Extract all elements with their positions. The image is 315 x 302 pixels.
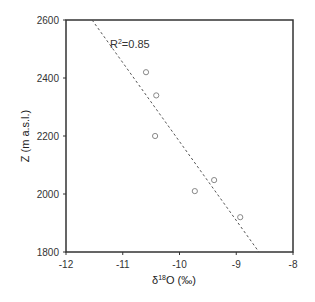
r-squared-annotation: R2=0.85 — [110, 38, 150, 50]
data-points — [143, 70, 242, 220]
x-tick-label: -10 — [172, 259, 187, 270]
x-axis-label: δ18O (‰) — [152, 274, 196, 286]
data-point-marker — [238, 215, 243, 220]
regression-line — [92, 20, 259, 252]
y-tick-label: 2000 — [37, 189, 60, 200]
x-axis-ticks: -12-11-10-9-8 — [59, 252, 298, 270]
data-point-marker — [143, 70, 148, 75]
x-tick-label: -11 — [116, 259, 130, 270]
plot-frame — [66, 20, 293, 252]
data-point-marker — [152, 133, 157, 138]
y-axis-label: Z (m a.s.l.) — [19, 110, 31, 163]
y-tick-label: 1800 — [37, 247, 60, 258]
data-point-marker — [212, 177, 217, 182]
data-point-marker — [192, 189, 197, 194]
scatter-chart: -12-11-10-9-8 18002000220024002600 R2=0.… — [0, 0, 315, 302]
x-tick-label: -8 — [289, 259, 298, 270]
data-point-marker — [154, 93, 159, 98]
x-tick-label: -9 — [232, 259, 241, 270]
y-tick-label: 2400 — [37, 73, 60, 84]
x-tick-label: -12 — [59, 259, 74, 270]
y-axis-ticks: 18002000220024002600 — [37, 15, 66, 258]
y-tick-label: 2600 — [37, 15, 60, 26]
y-tick-label: 2200 — [37, 131, 60, 142]
